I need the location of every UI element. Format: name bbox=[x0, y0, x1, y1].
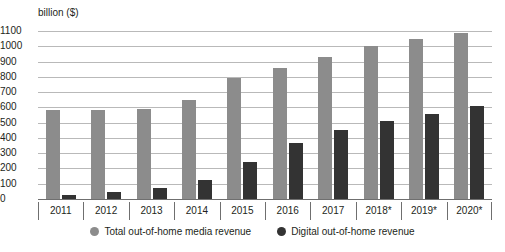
x-axis-tick-label: 2017 bbox=[322, 205, 344, 216]
legend-label: Digital out-of-home revenue bbox=[291, 226, 414, 237]
y-axis-tick-labels: 110010009008007006005004003002001000 bbox=[0, 31, 34, 199]
x-axis-tick-cell: 2014 bbox=[174, 200, 219, 220]
y-axis-tick-label: 900 bbox=[0, 57, 17, 67]
x-axis-tick-cell: 2020* bbox=[447, 200, 492, 220]
bar-digital[interactable] bbox=[470, 106, 484, 199]
x-axis-separator bbox=[220, 202, 221, 220]
legend-label: Total out-of-home media revenue bbox=[104, 226, 251, 237]
bar-group bbox=[265, 31, 310, 199]
x-axis: 20112012201320142015201620172018*2019*20… bbox=[38, 199, 492, 220]
bar-total[interactable] bbox=[91, 110, 105, 199]
x-axis-separator bbox=[401, 202, 402, 220]
chart-legend: Total out-of-home media revenueDigital o… bbox=[0, 226, 505, 237]
y-axis-tick-label: 500 bbox=[0, 118, 17, 128]
bar-total[interactable] bbox=[318, 57, 332, 199]
x-axis-tick-cell: 2016 bbox=[265, 200, 310, 220]
bar-digital[interactable] bbox=[153, 188, 167, 199]
x-axis-tick-cell: 2018* bbox=[356, 200, 401, 220]
bar-total[interactable] bbox=[273, 68, 287, 199]
x-axis-tick-label: 2012 bbox=[95, 205, 117, 216]
x-axis-tick-cell: 2013 bbox=[129, 200, 174, 220]
y-axis-tick-label: 800 bbox=[0, 72, 17, 82]
x-axis-separator bbox=[129, 202, 130, 220]
y-axis-tick-label: 1000 bbox=[0, 41, 22, 51]
x-axis-tick-cell: 2015 bbox=[220, 200, 265, 220]
chart-container: billion ($) 1100100090080070060050040030… bbox=[0, 0, 505, 252]
legend-swatch-digital-icon bbox=[277, 227, 286, 236]
bar-groups bbox=[38, 31, 492, 199]
y-axis-tick-label: 300 bbox=[0, 148, 17, 158]
y-axis-tick-label: 1100 bbox=[0, 26, 22, 36]
x-axis-tick-label: 2011 bbox=[50, 205, 72, 216]
bar-total[interactable] bbox=[182, 100, 196, 199]
bar-group bbox=[310, 31, 355, 199]
x-axis-separator bbox=[265, 202, 266, 220]
x-axis-separator bbox=[83, 202, 84, 220]
x-axis-tick-cell: 2017 bbox=[310, 200, 355, 220]
y-axis-tick-label: 0 bbox=[0, 194, 6, 204]
y-axis-tick-label: 400 bbox=[0, 133, 17, 143]
x-axis-tick-label: 2020* bbox=[456, 205, 482, 216]
legend-item[interactable]: Digital out-of-home revenue bbox=[277, 226, 414, 237]
bar-total[interactable] bbox=[137, 109, 151, 199]
y-axis-tick-label: 200 bbox=[0, 163, 17, 173]
x-axis-separator bbox=[310, 202, 311, 220]
bar-digital[interactable] bbox=[243, 162, 257, 199]
x-axis-tick-labels: 20112012201320142015201620172018*2019*20… bbox=[38, 200, 492, 220]
legend-swatch-total-icon bbox=[90, 227, 99, 236]
bar-digital[interactable] bbox=[380, 121, 394, 199]
bar-total[interactable] bbox=[364, 46, 378, 199]
bar-group bbox=[83, 31, 128, 199]
bar-group bbox=[447, 31, 492, 199]
bar-group bbox=[401, 31, 446, 199]
y-axis-tick-label: 700 bbox=[0, 87, 17, 97]
x-axis-tick-label: 2015 bbox=[231, 205, 253, 216]
bar-digital[interactable] bbox=[107, 192, 121, 199]
x-axis-tick-cell: 2012 bbox=[83, 200, 128, 220]
x-axis-separator bbox=[356, 202, 357, 220]
x-axis-separator bbox=[38, 202, 39, 220]
x-axis-tick-label: 2019* bbox=[411, 205, 437, 216]
bar-digital[interactable] bbox=[334, 130, 348, 199]
bar-digital[interactable] bbox=[289, 143, 303, 200]
x-axis-tick-label: 2013 bbox=[140, 205, 162, 216]
x-axis-tick-label: 2018* bbox=[365, 205, 391, 216]
x-axis-tick-cell: 2019* bbox=[401, 200, 446, 220]
legend-item[interactable]: Total out-of-home media revenue bbox=[90, 226, 251, 237]
x-axis-tick-label: 2014 bbox=[186, 205, 208, 216]
bar-digital[interactable] bbox=[425, 114, 439, 199]
bar-group bbox=[356, 31, 401, 199]
bar-total[interactable] bbox=[46, 110, 60, 199]
bar-group bbox=[38, 31, 83, 199]
plot-area bbox=[38, 31, 492, 199]
bar-group bbox=[129, 31, 174, 199]
x-axis-tick-label: 2016 bbox=[277, 205, 299, 216]
bar-group bbox=[220, 31, 265, 199]
y-axis-title: billion ($) bbox=[38, 7, 79, 18]
x-axis-tick-cell: 2011 bbox=[38, 200, 83, 220]
bar-total[interactable] bbox=[409, 39, 423, 199]
y-axis-tick-label: 100 bbox=[0, 179, 17, 189]
x-axis-separator bbox=[174, 202, 175, 220]
bar-total[interactable] bbox=[454, 33, 468, 199]
bar-group bbox=[174, 31, 219, 199]
x-axis-separator bbox=[447, 202, 448, 220]
y-axis-tick-label: 600 bbox=[0, 102, 17, 112]
bar-total[interactable] bbox=[227, 78, 241, 199]
x-axis-separator bbox=[491, 202, 492, 220]
bar-digital[interactable] bbox=[198, 180, 212, 199]
